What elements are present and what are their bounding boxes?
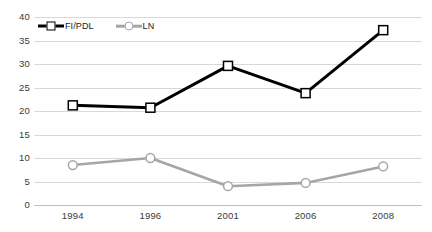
data-point — [379, 162, 388, 171]
legend-label: LN — [143, 21, 155, 31]
x-tick-label: 1994 — [62, 210, 84, 221]
data-point — [379, 26, 388, 35]
data-point — [301, 89, 310, 98]
data-point — [68, 101, 77, 110]
x-tick-label: 2006 — [295, 210, 317, 221]
data-point — [224, 182, 233, 191]
plot-area — [34, 17, 422, 205]
legend-item-fi-pdl[interactable]: FI/PDL — [38, 21, 94, 31]
y-tick-label: 0 — [4, 199, 30, 210]
y-tick-label: 30 — [4, 58, 30, 69]
data-point — [146, 154, 155, 163]
data-series-layer — [34, 17, 422, 205]
line-chart: 0510152025303540 19941996200120062008 FI… — [0, 0, 432, 232]
y-tick-label: 15 — [4, 129, 30, 140]
x-axis-line — [34, 205, 422, 206]
y-axis: 0510152025303540 — [0, 17, 30, 205]
legend-swatch-icon — [38, 21, 64, 31]
y-tick-label: 5 — [4, 176, 30, 187]
x-tick-label: 1996 — [139, 210, 161, 221]
chart-legend: FI/PDLLN — [38, 21, 154, 31]
data-point — [146, 103, 155, 112]
y-tick-label: 40 — [4, 11, 30, 22]
legend-label: FI/PDL — [65, 21, 94, 31]
y-tick-label: 20 — [4, 105, 30, 116]
y-tick-label: 25 — [4, 82, 30, 93]
y-tick-label: 10 — [4, 152, 30, 163]
legend-item-ln[interactable]: LN — [116, 21, 155, 31]
legend-swatch-icon — [116, 21, 142, 31]
x-tick-label: 2008 — [372, 210, 394, 221]
x-tick-label: 2001 — [217, 210, 239, 221]
data-point — [68, 161, 77, 170]
data-point — [224, 61, 233, 70]
y-tick-label: 35 — [4, 35, 30, 46]
x-axis: 19941996200120062008 — [34, 210, 422, 228]
data-point — [301, 179, 310, 188]
